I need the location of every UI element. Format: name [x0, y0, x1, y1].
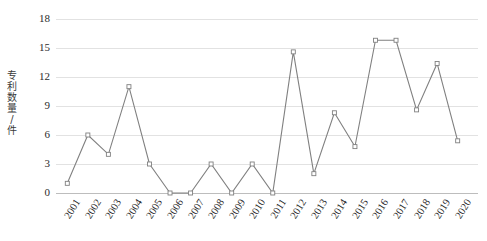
data-point-marker [250, 162, 254, 166]
data-point-marker [147, 162, 151, 166]
data-point-marker [209, 162, 213, 166]
plot-area [0, 0, 487, 241]
data-point-marker [456, 139, 460, 143]
data-point-marker [291, 50, 295, 54]
data-point-marker [65, 181, 69, 185]
data-point-marker [435, 61, 439, 65]
data-point-marker [106, 152, 110, 156]
data-series-line [67, 40, 457, 193]
data-point-marker [127, 85, 131, 89]
y-axis-tick-label: 3 [28, 157, 50, 169]
data-point-marker [230, 191, 234, 195]
data-point-marker [394, 38, 398, 42]
y-axis-tick-label: 12 [28, 70, 50, 82]
y-axis-tick-label: 6 [28, 128, 50, 140]
data-point-marker [353, 145, 357, 149]
data-point-marker [271, 191, 275, 195]
data-point-marker [168, 191, 172, 195]
data-point-marker [189, 191, 193, 195]
data-point-marker [312, 172, 316, 176]
data-point-marker [332, 111, 336, 115]
y-axis-tick-label: 9 [28, 99, 50, 111]
data-point-marker [86, 133, 90, 137]
line-chart: 专利数量/件 200120022003200420052006200720082… [0, 0, 487, 241]
y-axis-tick-label: 18 [28, 12, 50, 24]
y-axis-tick-label: 0 [28, 186, 50, 198]
data-point-marker [415, 108, 419, 112]
data-point-marker [373, 38, 377, 42]
y-axis-tick-label: 15 [28, 41, 50, 53]
